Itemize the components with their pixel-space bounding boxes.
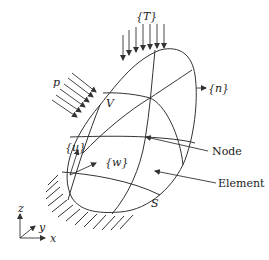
traction-arrows [123,24,164,60]
y-axis-arrow [20,226,35,238]
mesh-lines [62,50,195,214]
coordinate-axes: z y x [17,202,57,245]
normal-label: {n} [208,82,229,95]
pressure-label: p [53,76,60,89]
y-axis-label: y [38,221,46,234]
displacement-w-label: {w} [105,156,128,169]
displacement-w-arrow [70,163,96,175]
displacement-u-label: {u} [65,141,86,154]
volume-label: V [106,97,115,110]
body-outline [67,49,196,213]
element-pointer-arrow [155,171,216,183]
node-label: Node [212,145,242,158]
element-label: Element [218,177,265,190]
traction-label: {T} [136,10,157,23]
surface-label: S [151,197,159,210]
z-axis-label: z [17,202,24,215]
support-hatching [46,175,133,230]
finite-element-diagram: {T} p V {n} {u} {w} Node Element S [0,0,269,260]
x-axis-label: x [50,232,57,245]
